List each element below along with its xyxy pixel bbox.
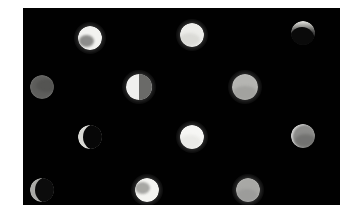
grey-disc-bottom-right xyxy=(236,178,260,202)
figure-root xyxy=(0,0,347,222)
half-disc-middle-center-terminator xyxy=(139,74,152,100)
bright-disc-upper-left xyxy=(78,26,102,50)
half-disc-middle-center xyxy=(126,74,152,100)
crescent-disc-upper-right xyxy=(291,21,315,45)
observation-plate xyxy=(23,8,340,205)
grey-disc-middle-left xyxy=(30,75,54,99)
bright-disc-lower-center-terminator xyxy=(180,135,201,148)
crescent-ring-lower-left xyxy=(78,125,102,149)
bright-disc-upper-left-terminator xyxy=(79,35,94,47)
grey-disc-middle-right xyxy=(232,74,258,100)
bright-disc-lower-center xyxy=(180,125,204,149)
grey-disc-lower-right-limb-highlight xyxy=(291,124,315,148)
bright-disc-upper-center xyxy=(180,23,204,47)
grey-disc-middle-left-terminator xyxy=(36,79,54,92)
grey-disc-bottom-right-terminator xyxy=(236,189,258,202)
grey-disc-middle-right-terminator xyxy=(233,86,256,100)
crescent-disc-bottom-left xyxy=(30,178,54,202)
crescent-disc-bottom-left-terminator xyxy=(35,178,54,202)
crescent-ring-lower-left-terminator xyxy=(83,125,102,149)
grey-disc-lower-right xyxy=(291,124,315,148)
bright-disc-bottom-center xyxy=(135,178,159,202)
